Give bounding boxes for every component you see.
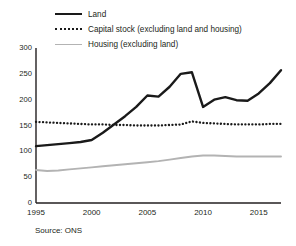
y-tick-label-0: 0 bbox=[10, 199, 32, 207]
series-line-capital-stock bbox=[36, 121, 281, 125]
x-tick-label-2000: 2000 bbox=[72, 208, 112, 217]
y-tick-label-150: 150 bbox=[10, 122, 32, 130]
source-note: Source: ONS bbox=[35, 226, 82, 235]
y-tick-label-50: 50 bbox=[10, 173, 32, 181]
y-tick-label-300: 300 bbox=[10, 44, 32, 52]
x-tick-label-2010: 2010 bbox=[183, 208, 223, 217]
series-line-land bbox=[36, 70, 281, 146]
y-tick-label-100: 100 bbox=[10, 147, 32, 155]
y-tick-label-250: 250 bbox=[10, 70, 32, 78]
chart-figure: Land Capital stock (excluding land and h… bbox=[0, 0, 296, 246]
series-line-housing bbox=[36, 155, 281, 171]
x-tick-label-2015: 2015 bbox=[239, 208, 279, 217]
x-tick-label-2005: 2005 bbox=[127, 208, 167, 217]
plot-area: 0 50 100 150 200 250 300 1995 2000 2005 … bbox=[0, 0, 296, 246]
y-tick-label-200: 200 bbox=[10, 96, 32, 104]
x-tick-label-1995: 1995 bbox=[16, 208, 56, 217]
